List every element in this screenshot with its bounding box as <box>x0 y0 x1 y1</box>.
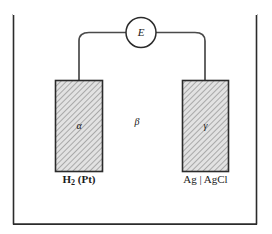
phase-symbol-gamma: γ <box>182 121 229 131</box>
wire-right <box>156 33 205 81</box>
phase-symbol-beta: β <box>125 117 149 127</box>
cell-diagram-figure: E α β γ H2 (Pt) Ag | AgCl <box>0 0 272 234</box>
voltmeter-label: E <box>126 27 156 38</box>
electrode-left-caption-main: H <box>62 173 71 185</box>
electrode-left-caption-suffix: (Pt) <box>75 173 95 185</box>
phase-symbol-alpha: α <box>55 121 103 131</box>
electrode-left-caption: H2 (Pt) <box>55 174 103 185</box>
wire-left <box>79 33 126 81</box>
electrode-left-caption-subscript: 2 <box>71 178 75 187</box>
electrode-right-caption: Ag | AgCl <box>178 174 233 185</box>
